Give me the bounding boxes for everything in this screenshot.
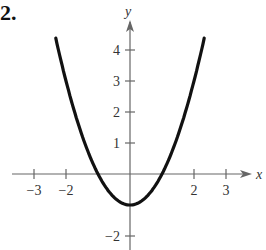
graph: xy−3−2234321−2 [0, 0, 266, 250]
x-tick-label: 3 [223, 183, 230, 198]
x-axis-label: x [255, 167, 263, 182]
y-axis-label: y [123, 4, 132, 19]
y-tick-label: 2 [113, 105, 120, 120]
y-tick-label: 4 [113, 43, 120, 58]
x-tick-label: −3 [27, 183, 42, 198]
y-tick-label: 3 [113, 74, 120, 89]
axes: xy−3−2234321−2 [12, 4, 263, 250]
y-tick-label: −2 [105, 229, 120, 244]
y-tick-label: 1 [113, 136, 120, 151]
x-tick-label: 2 [191, 183, 198, 198]
x-tick-label: −2 [59, 183, 74, 198]
